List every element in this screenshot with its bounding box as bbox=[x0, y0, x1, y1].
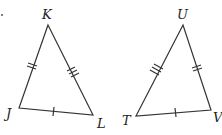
vertex-label-l: L bbox=[96, 116, 106, 131]
tick-marks-tu bbox=[150, 64, 163, 75]
tick-marks-jl bbox=[53, 107, 54, 116]
triangle-jkl-outline bbox=[19, 25, 93, 115]
tick-marks-jk bbox=[27, 63, 37, 69]
triangle-jkl bbox=[19, 25, 93, 116]
tick-marks-kl bbox=[67, 67, 79, 77]
triangle-tuv bbox=[136, 25, 211, 117]
tick-marks-tv bbox=[175, 108, 176, 117]
vertex-label-v: V bbox=[213, 110, 222, 125]
triangle-tuv-outline bbox=[136, 25, 211, 116]
vertex-label-u: U bbox=[177, 7, 189, 22]
vertex-label-j: J bbox=[3, 106, 12, 121]
congruent-triangles-diagram: K J L U T V bbox=[0, 0, 222, 135]
vertex-label-t: T bbox=[122, 113, 132, 128]
stray-dot bbox=[1, 14, 3, 16]
vertex-label-k: K bbox=[41, 7, 53, 22]
